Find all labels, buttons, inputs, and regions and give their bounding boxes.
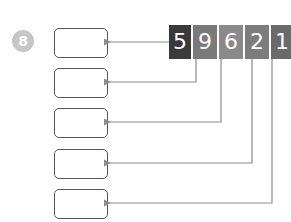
connector-arrows — [0, 0, 291, 222]
arrow-6 — [110, 59, 221, 122]
arrow-2 — [110, 59, 252, 163]
arrow-9 — [110, 59, 196, 82]
arrow-1 — [110, 59, 272, 203]
